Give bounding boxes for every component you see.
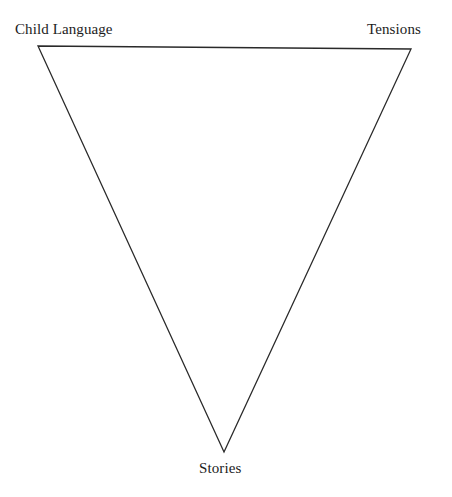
triangle-outline — [38, 46, 411, 452]
triangle-shape — [0, 0, 452, 497]
vertex-label-stories: Stories — [199, 460, 241, 477]
diagram-canvas: Child Language Tensions Stories — [0, 0, 452, 497]
vertex-label-child-language: Child Language — [15, 21, 113, 38]
vertex-label-tensions: Tensions — [367, 21, 421, 38]
